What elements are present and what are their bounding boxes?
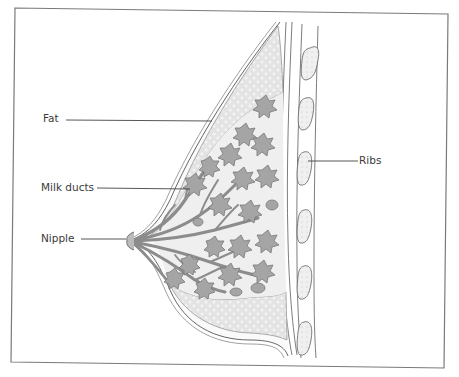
fat-label: Fat [43,113,59,124]
ribs [297,47,319,355]
fat-leader-line [66,120,212,121]
breast-anatomy-diagram: Fat Milk ducts Nipple Ribs [0,0,459,377]
nipple [127,232,134,250]
nipple-label: Nipple [41,233,74,244]
milk-ducts-label: Milk ducts [41,182,94,193]
ribs-label: Ribs [359,155,381,166]
